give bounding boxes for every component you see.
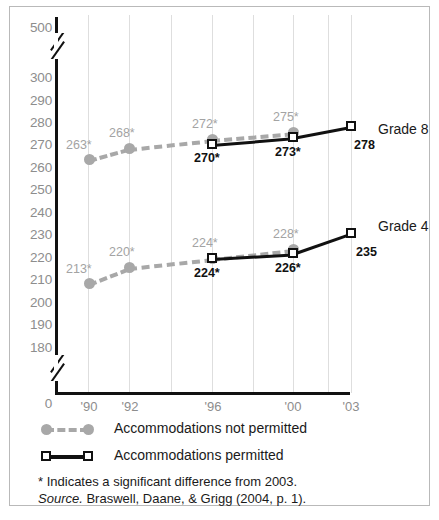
data-label: 213* bbox=[66, 262, 92, 276]
y-tick-label: 210 bbox=[12, 272, 52, 287]
y-tick-label: 260 bbox=[12, 160, 52, 175]
x-axis-line bbox=[55, 392, 350, 395]
x-tick-label: '90 bbox=[69, 399, 109, 414]
cut-off-caption bbox=[0, 512, 439, 520]
data-label: 220* bbox=[109, 245, 135, 259]
data-point-marker bbox=[346, 121, 356, 131]
data-label: 224* bbox=[194, 266, 220, 280]
data-label: 275* bbox=[273, 110, 299, 124]
y-tick-label: 240 bbox=[12, 205, 52, 220]
legend-label: Accommodations permitted bbox=[114, 447, 284, 463]
data-label: 272* bbox=[192, 117, 218, 131]
series-segment-not-permitted bbox=[88, 148, 129, 163]
x-tick-label: '00 bbox=[273, 399, 313, 414]
data-point-marker bbox=[288, 248, 298, 258]
y-axis-line bbox=[55, 17, 58, 395]
y-tick-label: 290 bbox=[12, 93, 52, 108]
y-tick-label: 270 bbox=[12, 137, 52, 152]
y-axis-break-lower-icon bbox=[43, 355, 71, 381]
legend-key-solid-black-squares bbox=[38, 445, 102, 467]
circle-marker-icon bbox=[41, 424, 52, 435]
plot-area: 500 300 290 280 270 260 250 240 230 220 … bbox=[10, 7, 431, 407]
data-point-marker bbox=[84, 278, 95, 289]
y-tick-label: 230 bbox=[12, 227, 52, 242]
data-label: 226* bbox=[275, 261, 301, 275]
gridline bbox=[171, 15, 172, 393]
legend-label: Accommodations not permitted bbox=[114, 420, 307, 436]
source-label: Source. bbox=[38, 491, 83, 506]
y-tick-label: 500 bbox=[12, 20, 52, 35]
data-point-marker bbox=[346, 228, 356, 238]
notes-block: * Indicates a significant difference fro… bbox=[38, 473, 418, 507]
data-label: 273* bbox=[275, 145, 301, 159]
footnote-significance: * Indicates a significant difference fro… bbox=[38, 473, 418, 490]
data-label: 268* bbox=[109, 126, 135, 140]
gridline bbox=[212, 15, 213, 393]
y-tick-label: 300 bbox=[12, 70, 52, 85]
gridline bbox=[351, 15, 352, 393]
square-marker-icon bbox=[41, 451, 51, 461]
y-tick-label: 180 bbox=[12, 340, 52, 355]
data-point-marker bbox=[207, 253, 217, 263]
series-segment-permitted bbox=[293, 126, 351, 140]
x-tick-label: '03 bbox=[331, 399, 371, 414]
square-marker-icon bbox=[83, 451, 93, 461]
series-group-label-grade-8: Grade 8 bbox=[378, 121, 429, 137]
y-tick-label: 250 bbox=[12, 182, 52, 197]
data-label: 235 bbox=[356, 245, 377, 259]
data-label: 228* bbox=[273, 227, 299, 241]
data-label: 263* bbox=[66, 138, 92, 152]
legend-key-dashed-gray-circles bbox=[38, 418, 102, 440]
figure-container: 500 300 290 280 270 260 250 240 230 220 … bbox=[9, 6, 430, 506]
y-axis-break-upper-icon bbox=[43, 33, 71, 59]
x-tick-label: '96 bbox=[193, 399, 233, 414]
data-point-marker bbox=[124, 262, 135, 273]
series-group-label-grade-4: Grade 4 bbox=[378, 218, 429, 234]
y-tick-label: 220 bbox=[12, 250, 52, 265]
data-point-marker bbox=[124, 143, 135, 154]
y-tick-label: 280 bbox=[12, 115, 52, 130]
source-citation: Braswell, Daane, & Grigg (2004, p. 1). bbox=[86, 491, 306, 506]
data-label: 278 bbox=[354, 138, 375, 152]
source-note: Source. Braswell, Daane, & Grigg (2004, … bbox=[38, 490, 418, 507]
circle-marker-icon bbox=[83, 424, 94, 435]
gridline bbox=[253, 15, 254, 393]
gridline bbox=[328, 15, 329, 393]
gridline bbox=[88, 15, 89, 393]
series-segment-permitted bbox=[293, 233, 351, 256]
data-label: 270* bbox=[194, 151, 220, 165]
data-point-marker bbox=[207, 139, 217, 149]
gridline bbox=[129, 15, 130, 393]
data-point-marker bbox=[288, 132, 298, 142]
data-point-marker bbox=[84, 154, 95, 165]
x-tick-label: '92 bbox=[110, 399, 150, 414]
y-tick-label: 200 bbox=[12, 295, 52, 310]
data-label: 224* bbox=[192, 236, 218, 250]
y-tick-label: 190 bbox=[12, 317, 52, 332]
gridline bbox=[293, 15, 294, 393]
y-tick-label: 0 bbox=[12, 396, 52, 411]
